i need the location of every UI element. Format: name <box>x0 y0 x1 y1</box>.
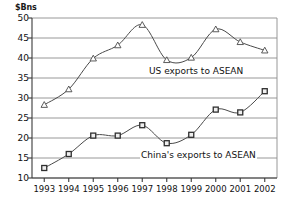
data-point-marker <box>140 123 145 128</box>
x-axis-tick-label: 2000 <box>205 184 227 194</box>
x-axis-tick-label: 2001 <box>229 184 251 194</box>
x-axis-tick-label: 2002 <box>254 184 276 194</box>
series-annotation-china: China's exports to ASEAN <box>140 150 257 160</box>
data-point-marker <box>237 39 243 45</box>
data-point-marker <box>42 166 47 171</box>
series-line-us <box>44 25 265 105</box>
plot-area <box>0 0 292 202</box>
x-axis-tick-label: 1999 <box>180 184 202 194</box>
data-point-marker <box>41 102 47 108</box>
data-point-marker <box>91 133 96 138</box>
data-point-marker <box>66 152 71 157</box>
data-point-marker <box>189 132 194 137</box>
data-point-marker <box>164 141 169 146</box>
x-axis-tick-label: 1996 <box>107 184 129 194</box>
data-point-marker <box>115 133 120 138</box>
data-point-marker <box>238 110 243 115</box>
data-point-marker <box>262 89 267 94</box>
chart-container: $Bns 101520253035404550 US exports to AS… <box>0 0 292 202</box>
x-axis-tick-label: 1998 <box>156 184 178 194</box>
x-axis-tick-label: 1997 <box>131 184 153 194</box>
data-point-marker <box>213 107 218 112</box>
x-axis-tick-label: 1993 <box>33 184 55 194</box>
x-axis-tick-label: 1994 <box>58 184 80 194</box>
x-axis-tick-label: 1995 <box>82 184 104 194</box>
series-annotation-us: US exports to ASEAN <box>148 66 244 76</box>
